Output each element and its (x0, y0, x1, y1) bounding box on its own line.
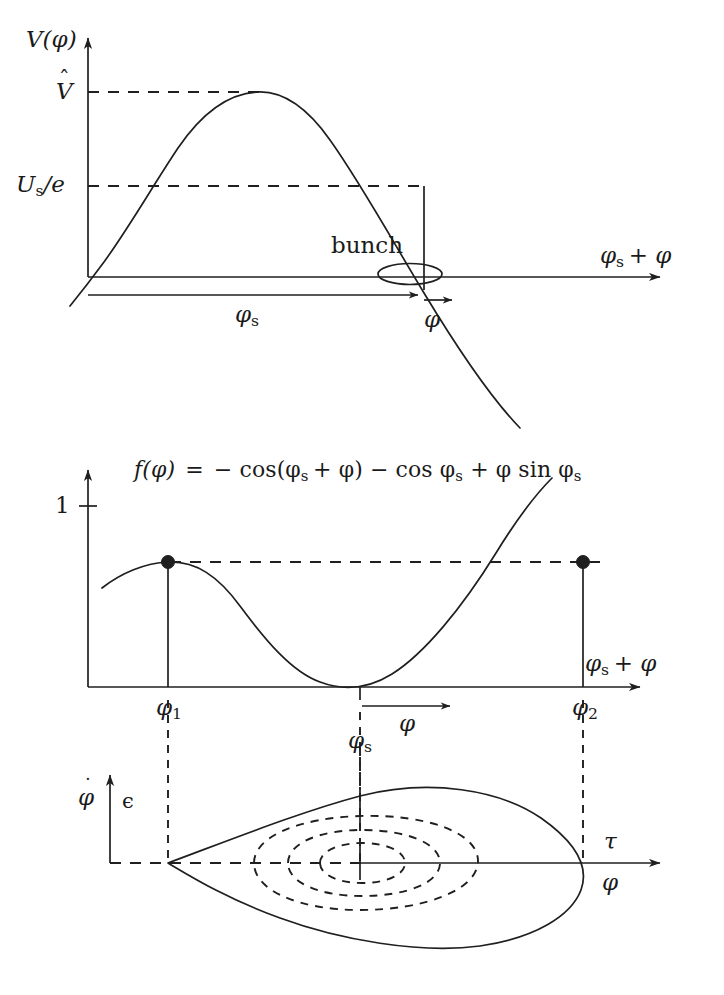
mid-phi-arrow-label: φ (399, 712, 415, 735)
bot-x-axis-label-tau: τ (604, 830, 617, 853)
mid-tick-label-phis: φs (348, 729, 372, 755)
top-y-axis-label: V(φ) (26, 28, 77, 51)
potential-formula: f(φ) = − cos(φs + φ) − cos φs + φ sin φs (134, 459, 581, 484)
bunch-label: bunch (331, 234, 403, 257)
top-y-tick-use-label: Us/e (16, 173, 65, 199)
bunch-ellipse (378, 264, 442, 285)
mid-phi2-point (577, 556, 590, 569)
top-rf-sine-curve (70, 92, 520, 428)
mid-y-tick-one-label: 1 (55, 494, 70, 517)
top-phi-label: φ (424, 308, 440, 331)
panel-bottom-phase-space (110, 775, 660, 948)
bot-y-axis-label-phidot: ˙φ (78, 786, 94, 809)
mid-x-axis-label: φs + φ (585, 652, 656, 678)
separatrix-curve (168, 787, 583, 948)
bot-y-axis-label-epsilon: ϵ (122, 791, 134, 812)
top-y-tick-vhat-label: ˆV (56, 80, 73, 103)
top-phi-s-label: φs (235, 303, 259, 329)
bot-x-axis-label-phi: φ (602, 871, 618, 894)
top-x-axis-label: φs + φ (600, 244, 671, 270)
mid-tick-label-phi2: φ2 (572, 696, 598, 722)
figure-container: V(φ) ˆV Us/e bunch φs + φ φs φ 1 f(φ) = … (0, 0, 724, 995)
mid-phi1-point (162, 556, 175, 569)
mid-tick-label-phi1: φ1 (156, 696, 182, 722)
mid-potential-curve (102, 478, 552, 687)
